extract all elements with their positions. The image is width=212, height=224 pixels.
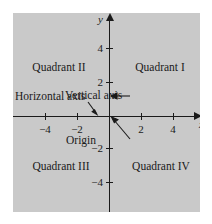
callout-leader-lines — [13, 13, 200, 212]
plot-area: x y −4 −2 2 4 4 2 −2 −4 Quadrant I Quadr… — [13, 13, 200, 212]
origin-pointer-arrow-icon — [112, 117, 118, 123]
vertical-axis-pointer-arrow-icon — [111, 93, 117, 99]
horizontal-axis-pointer-arrow-icon — [92, 110, 97, 115]
origin-pointer-line — [114, 120, 130, 139]
coordinate-plane-figure: x y −4 −2 2 4 4 2 −2 −4 Quadrant I Quadr… — [0, 0, 212, 224]
